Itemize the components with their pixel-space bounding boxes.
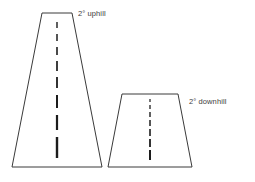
downhill-label: 2° downhill	[189, 97, 226, 106]
uphill-label: 2° uphill	[78, 9, 106, 18]
diagram-canvas	[0, 0, 255, 182]
road-gradient-diagram: 2° uphill 2° downhill	[0, 0, 255, 182]
